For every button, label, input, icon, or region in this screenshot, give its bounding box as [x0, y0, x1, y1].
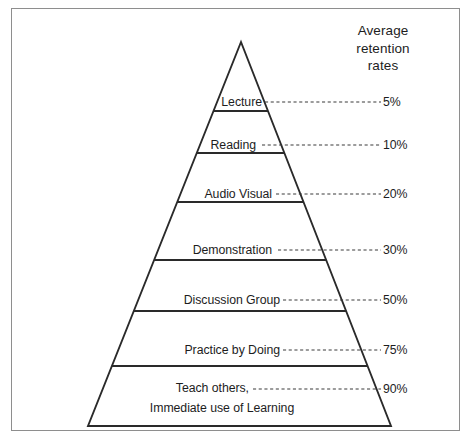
learning-pyramid-figure: Average retention rates Lecture5%Reading… [0, 0, 471, 440]
tier-label-3: Audio Visual [0, 187, 272, 201]
tier-label-7: Teach others, [0, 381, 249, 395]
tier-label-7-line-2: Immediate use of Learning [150, 401, 294, 415]
legend-title-line-3: rates [323, 57, 443, 75]
retention-value-1: 5% [383, 95, 401, 109]
legend-title: Average retention rates [323, 22, 443, 75]
retention-value-3: 20% [383, 187, 407, 201]
retention-value-2: 10% [383, 138, 407, 152]
tier-label-2: Reading [0, 138, 256, 152]
tier-label-4: Demonstration [0, 243, 272, 257]
retention-value-7: 90% [383, 382, 407, 396]
tier-label-5: Discussion Group [0, 293, 280, 307]
legend-title-line-2: retention [323, 40, 443, 58]
retention-value-6: 75% [383, 343, 407, 357]
retention-value-4: 30% [383, 243, 407, 257]
legend-title-line-1: Average [323, 22, 443, 40]
tier-label-1: Lecture [0, 95, 262, 109]
tier-label-6: Practice by Doing [0, 343, 280, 357]
retention-value-5: 50% [383, 293, 407, 307]
